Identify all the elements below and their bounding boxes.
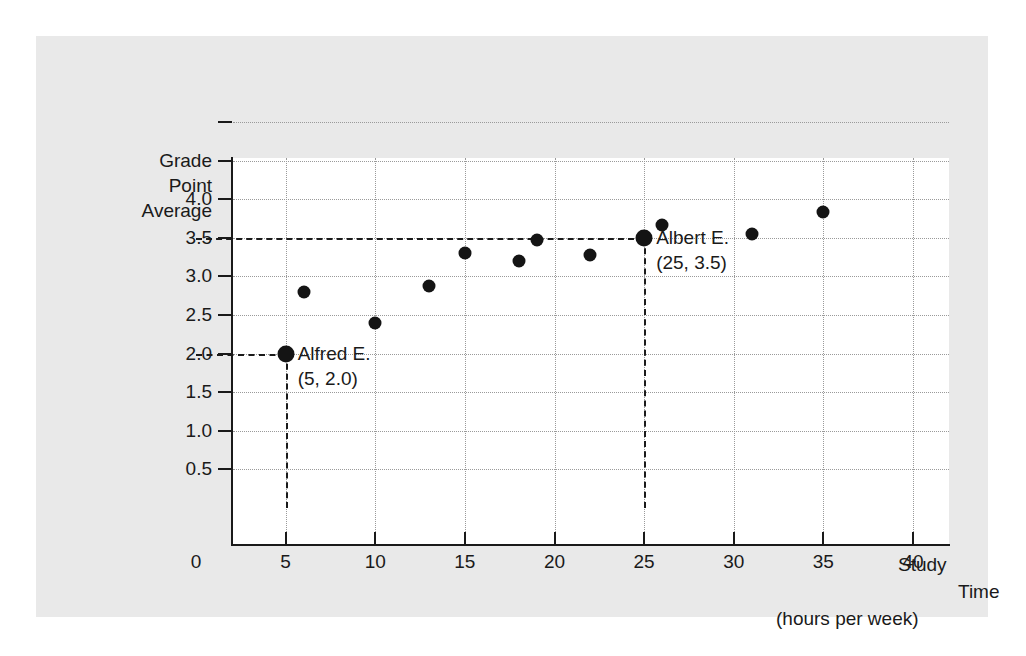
- y-tick-label: 3.0: [66, 265, 212, 287]
- y-tick-label-wrap: 2.0: [66, 343, 212, 365]
- figure-root: 0.51.01.52.02.53.03.54.0 051015202530354…: [0, 0, 1026, 656]
- reference-line-vertical: [644, 238, 646, 508]
- gridline-vertical: [913, 158, 914, 544]
- y-axis-tick: [218, 198, 232, 200]
- gridline-horizontal: [233, 469, 949, 470]
- figure-panel: 0.51.01.52.02.53.03.54.0 051015202530354…: [36, 36, 988, 617]
- data-point: [458, 247, 471, 260]
- gridline-vertical: [734, 158, 735, 544]
- x-tick-label: 25: [614, 551, 674, 573]
- y-axis-tick: [218, 121, 232, 123]
- annotation-coords: (25, 3.5): [656, 250, 729, 275]
- y-tick-label-wrap: 0.5: [66, 458, 212, 480]
- y-axis-tick: [218, 275, 232, 277]
- y-axis-tick: [218, 160, 232, 162]
- y-tick-label-wrap: 1.5: [66, 381, 212, 403]
- data-point: [423, 279, 436, 292]
- x-tick-label: 15: [435, 551, 495, 573]
- annotation-coords: (5, 2.0): [298, 366, 371, 391]
- y-tick-label: 3.5: [66, 227, 212, 249]
- x-tick-label: 20: [525, 551, 585, 573]
- y-axis-tick: [218, 430, 232, 432]
- gridline-vertical: [465, 158, 466, 544]
- x-axis-title-line-3: (hours per week): [776, 605, 1026, 632]
- x-axis-title: Study Time (hours per week): [896, 551, 1026, 632]
- gridline-horizontal: [233, 161, 949, 162]
- reference-line-horizontal: [196, 238, 644, 240]
- gridline-horizontal: [233, 315, 949, 316]
- gridline-horizontal: [233, 199, 949, 200]
- y-axis-title: Grade Point Average: [66, 148, 212, 223]
- data-point: [745, 227, 758, 240]
- y-tick-label-wrap: 3.0: [66, 265, 212, 287]
- y-tick-label: 1.5: [66, 381, 212, 403]
- y-axis-tick: [218, 391, 232, 393]
- x-tick-label: 0: [166, 551, 226, 573]
- y-tick-label: 0.5: [66, 458, 212, 480]
- gridline-horizontal: [233, 431, 949, 432]
- gridline-vertical: [375, 158, 376, 544]
- x-tick-label: 35: [793, 551, 853, 573]
- y-axis-title-line-2: Point: [66, 173, 212, 198]
- x-axis-title-line-1: Study: [896, 551, 1026, 578]
- y-axis-tick: [218, 314, 232, 316]
- y-tick-label-wrap: 1.0: [66, 420, 212, 442]
- data-point: [297, 285, 310, 298]
- y-axis-title-line-1: Grade: [66, 148, 212, 173]
- x-axis-line: [231, 544, 950, 546]
- gridline-horizontal: [233, 122, 949, 123]
- gridline-horizontal: [233, 276, 949, 277]
- y-tick-label-wrap: 2.5: [66, 304, 212, 326]
- x-tick-label: 30: [704, 551, 764, 573]
- data-point: [817, 206, 830, 219]
- gridline-horizontal: [233, 392, 949, 393]
- data-point: [636, 229, 653, 246]
- reference-line-vertical: [286, 354, 288, 508]
- y-tick-label: 2.5: [66, 304, 212, 326]
- y-axis-line: [231, 157, 233, 545]
- annotation-name: Albert E.: [656, 225, 729, 250]
- data-point: [530, 234, 543, 247]
- data-point: [584, 248, 597, 261]
- point-annotation: Alfred E.(5, 2.0): [298, 341, 371, 391]
- x-tick-label: 5: [256, 551, 316, 573]
- x-tick-label: 10: [345, 551, 405, 573]
- gridline-vertical: [555, 158, 556, 544]
- y-tick-label: 2.0: [66, 343, 212, 365]
- x-axis-title-line-2: Time: [896, 578, 1026, 605]
- point-annotation: Albert E.(25, 3.5): [656, 225, 729, 275]
- y-tick-label: 1.0: [66, 420, 212, 442]
- y-tick-label-wrap: 3.5: [66, 227, 212, 249]
- data-point: [369, 316, 382, 329]
- y-axis-tick: [218, 468, 232, 470]
- data-point: [277, 345, 294, 362]
- annotation-name: Alfred E.: [298, 341, 371, 366]
- data-point: [512, 254, 525, 267]
- y-axis-title-line-3: Average: [66, 198, 212, 223]
